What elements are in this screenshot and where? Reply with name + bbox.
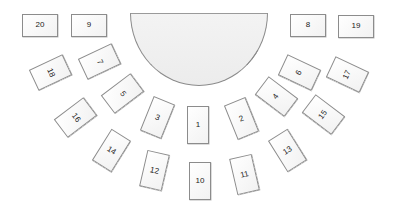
seat-7: 7 [77, 43, 120, 79]
seat-number-label: 18 [44, 66, 55, 77]
stage-semicircle [130, 13, 268, 86]
seat-number-label: 9 [87, 21, 91, 29]
seat-number-label: 14 [105, 144, 117, 156]
seat-number-label: 8 [306, 21, 310, 29]
seat-number-label: 19 [352, 22, 361, 30]
seat-number-label: 3 [153, 112, 160, 121]
seat-number-label: 1 [196, 121, 200, 129]
seat-10: 10 [189, 162, 211, 200]
seat-number-label: 4 [271, 92, 280, 100]
seat-13: 13 [267, 128, 306, 172]
seat-number-label: 2 [237, 113, 244, 122]
seat-1: 1 [187, 106, 209, 144]
seat-number-label: 13 [281, 144, 293, 156]
seat-11: 11 [229, 153, 260, 194]
seat-number-label: 10 [196, 177, 205, 185]
seat-18: 18 [28, 54, 71, 90]
seat-17: 17 [325, 56, 368, 92]
seat-19: 19 [338, 15, 374, 38]
seat-number-label: 16 [69, 111, 81, 123]
seat-12: 12 [139, 149, 170, 190]
seat-14: 14 [91, 128, 130, 172]
seat-number-label: 15 [317, 108, 329, 120]
seat-number-label: 17 [341, 68, 352, 79]
seat-9: 9 [71, 14, 107, 37]
seat-number-label: 5 [117, 89, 126, 97]
seat-16: 16 [53, 97, 96, 138]
seat-3: 3 [139, 96, 174, 139]
seat-5: 5 [100, 73, 143, 114]
seat-20: 20 [22, 14, 58, 37]
seating-diagram: 2098191871653141211021113461517 [0, 0, 398, 209]
seat-6: 6 [277, 54, 320, 90]
seat-15: 15 [301, 94, 344, 135]
seat-number-label: 11 [239, 169, 249, 179]
seat-8: 8 [290, 14, 326, 37]
seat-number-label: 6 [294, 68, 303, 75]
seat-2: 2 [223, 97, 258, 140]
seat-number-label: 12 [149, 165, 159, 175]
seat-number-label: 20 [36, 21, 45, 29]
seat-number-label: 7 [94, 57, 103, 64]
